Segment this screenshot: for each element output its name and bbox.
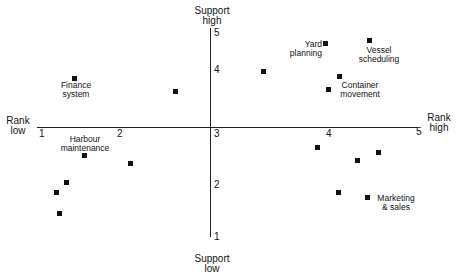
- point-harbour-maintenance: [82, 153, 87, 158]
- point: [128, 161, 133, 166]
- label-line: maintenance: [58, 144, 112, 153]
- support-high-line2: high: [189, 16, 235, 26]
- label-line: planning: [288, 49, 322, 58]
- x-tick-3: 3: [214, 129, 220, 139]
- point: [326, 87, 331, 92]
- x-tick-5: 5: [416, 127, 422, 137]
- x-tick-4: 4: [326, 129, 332, 139]
- y-tick-2: 2: [214, 180, 220, 190]
- rank-high-label: Rank high: [424, 113, 454, 133]
- y-tick-1: 1: [214, 232, 220, 242]
- rank-axis-line: [37, 127, 417, 128]
- rank-high-line2: high: [424, 123, 454, 133]
- label-harbour-maintenance: Harbour maintenance: [58, 135, 112, 153]
- point: [64, 180, 69, 185]
- support-axis-line: [210, 28, 211, 237]
- point: [261, 69, 266, 74]
- point-vessel-scheduling: [367, 38, 372, 43]
- label-line: & sales: [373, 203, 419, 212]
- rank-support-scatter-chart: Rank low Rank high Support high Support …: [0, 0, 457, 277]
- point: [376, 150, 381, 155]
- support-low-line2: low: [189, 264, 235, 274]
- x-tick-1: 1: [39, 129, 45, 139]
- y-tick-5: 5: [214, 28, 220, 38]
- label-line: movement: [336, 90, 384, 99]
- rank-low-line2: low: [4, 126, 32, 136]
- point: [336, 190, 341, 195]
- label-marketing-sales: Marketing & sales: [373, 194, 419, 212]
- point: [54, 190, 59, 195]
- point-yard-planning: [323, 41, 328, 46]
- point-marketing-sales: [365, 195, 370, 200]
- label-line: system: [56, 90, 96, 99]
- label-finance-system: Finance system: [56, 81, 96, 99]
- y-tick-4: 4: [214, 65, 220, 75]
- label-line: scheduling: [356, 55, 402, 64]
- support-high-label: Support high: [189, 6, 235, 26]
- point: [315, 145, 320, 150]
- point: [355, 158, 360, 163]
- rank-low-label: Rank low: [4, 116, 32, 136]
- point: [57, 211, 62, 216]
- point: [173, 89, 178, 94]
- label-container-movement: Container movement: [336, 81, 384, 99]
- label-yard-planning: Yard planning: [288, 40, 322, 58]
- x-tick-2: 2: [117, 129, 123, 139]
- point-container-movement: [337, 74, 342, 79]
- support-low-label: Support low: [189, 254, 235, 274]
- label-vessel-scheduling: Vessel scheduling: [356, 46, 402, 64]
